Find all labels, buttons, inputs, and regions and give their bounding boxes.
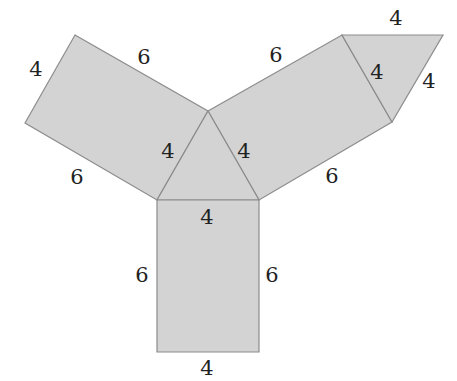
label-center-tri-right: 4 bbox=[237, 139, 250, 163]
label-bottom-rect-right: 6 bbox=[265, 263, 278, 287]
label-left-rect-bottom-long: 6 bbox=[70, 165, 83, 189]
label-bottom-rect-left: 6 bbox=[135, 263, 148, 287]
label-right-rect-inner-short: 4 bbox=[370, 60, 383, 84]
diagram-svg: 4 6 6 4 4 4 6 6 4 4 4 6 6 4 bbox=[0, 0, 457, 381]
label-center-tri-left: 4 bbox=[161, 139, 174, 163]
label-right-rect-top-long: 6 bbox=[269, 43, 282, 67]
label-bottom-rect-bottom: 4 bbox=[200, 356, 213, 380]
label-center-tri-base: 4 bbox=[200, 205, 213, 229]
label-top-tri-top: 4 bbox=[389, 6, 402, 30]
label-right-rect-bottom-long: 6 bbox=[325, 164, 338, 188]
label-left-rect-top-long: 6 bbox=[137, 45, 150, 69]
label-left-rect-outer-short: 4 bbox=[29, 57, 42, 81]
prism-net-diagram: 4 6 6 4 4 4 6 6 4 4 4 6 6 4 bbox=[0, 0, 457, 381]
label-top-tri-right: 4 bbox=[422, 69, 435, 93]
